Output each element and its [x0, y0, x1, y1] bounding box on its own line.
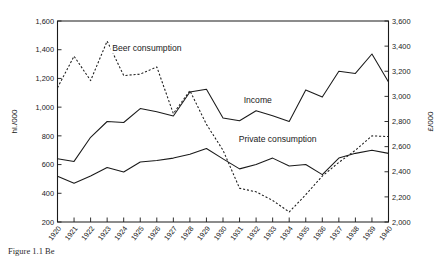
- x-axis-tick-label: 1935: [294, 224, 311, 242]
- x-axis-tick-label: 1938: [344, 224, 361, 242]
- y-axis-left-tick-label: 1,600: [36, 17, 55, 26]
- y-axis-left-tick-label: 400: [42, 189, 54, 198]
- x-axis-tick-label: 1939: [361, 224, 378, 242]
- x-axis-tick-label: 1929: [195, 224, 212, 242]
- y-axis-right-tick-label: 2,200: [392, 193, 411, 202]
- x-axis-tick-label: 1920: [46, 224, 63, 242]
- x-axis-tick-label: 1936: [311, 224, 328, 242]
- y-axis-right-tick-label: 2,400: [392, 167, 411, 176]
- y-axis-right-tick-label: 3,600: [392, 17, 411, 26]
- y-axis-left-tick-label: 1,000: [36, 103, 55, 112]
- y-axis-right-tick-label: 3,000: [392, 92, 411, 101]
- y-axis-left-title: hl./000: [10, 109, 19, 134]
- y-axis-right-tick-label: 3,200: [392, 67, 411, 76]
- series-layer: [58, 41, 389, 212]
- axis-titles: hl./000£/000: [10, 109, 436, 134]
- y-axis-right-title: £/000: [426, 111, 435, 132]
- series-line-private-consumption: [58, 148, 389, 183]
- x-axis-tick-label: 1923: [96, 224, 113, 242]
- x-axis-tick-label: 1934: [278, 224, 295, 242]
- y-axis-right-tick-label: 3,400: [392, 42, 411, 51]
- x-axis-tick-label: 1937: [327, 224, 344, 242]
- x-axis-tick-label: 1931: [228, 224, 245, 242]
- x-axis-tick-label: 1925: [129, 224, 146, 242]
- series-line-beer-consumption: [58, 41, 389, 212]
- x-axis-tick-label: 1930: [212, 224, 229, 242]
- x-axis-tick-label: 1928: [179, 224, 196, 242]
- y-axis-left-tick-label: 200: [42, 218, 54, 227]
- series-label-private-consumption: Private consumption: [239, 134, 317, 144]
- y-axis-left-tick-label: 600: [42, 160, 54, 169]
- y-axis-right-tick-label: 2,600: [392, 142, 411, 151]
- x-axis: 1920192119221923192419251926192719281929…: [46, 218, 394, 243]
- figure-caption: Figure 1.1 Be: [8, 246, 55, 256]
- x-axis-tick-label: 1924: [112, 224, 129, 242]
- y-axis-right-tick-label: 2,800: [392, 117, 411, 126]
- series-label-beer-consumption: Beer consumption: [112, 43, 181, 53]
- line-chart: 2004006008001,0001,2001,4001,600 2,0002,…: [0, 0, 447, 256]
- series-annotation-labels: Beer consumptionIncomePrivate consumptio…: [110, 43, 321, 145]
- y-axis-left-tick-label: 1,200: [36, 74, 55, 83]
- x-axis-tick-label: 1940: [377, 224, 394, 242]
- x-axis-tick-label: 1933: [261, 224, 278, 242]
- x-axis-tick-label: 1926: [145, 224, 162, 242]
- y-axis-left-tick-label: 1,400: [36, 45, 55, 54]
- x-axis-tick-label: 1921: [63, 224, 80, 242]
- x-axis-tick-label: 1932: [245, 224, 262, 242]
- x-axis-tick-label: 1922: [79, 224, 96, 242]
- figure-container: 2004006008001,0001,2001,4001,600 2,0002,…: [0, 0, 447, 256]
- y-axis-left-tick-label: 800: [42, 132, 54, 141]
- series-label-income: Income: [244, 95, 272, 105]
- y-axis-right-tick-label: 2,000: [392, 218, 411, 227]
- x-axis-tick-label: 1927: [162, 224, 179, 242]
- series-line-income: [58, 54, 389, 161]
